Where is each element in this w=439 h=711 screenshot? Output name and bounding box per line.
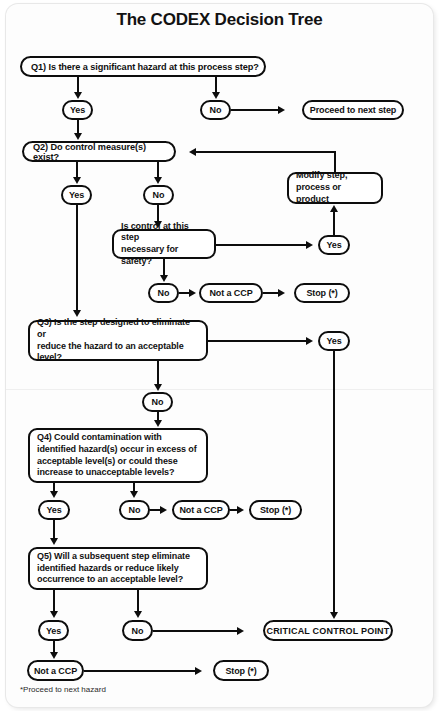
flowchart-stage: The CODEX Decision Tree Q1) Is there a s… xyxy=(0,0,439,711)
node-q3-line3: level? xyxy=(37,352,199,364)
node-q3-line2: reduce the hazard to an acceptable xyxy=(37,341,199,353)
edge-modify-across-to-q2 xyxy=(196,151,336,153)
node-q5-not-ccp-label: Not a CCP xyxy=(34,666,77,676)
arrow-q4yes-to-q5 xyxy=(50,538,58,545)
edge-q5-to-no xyxy=(137,590,139,612)
arrow-yes-to-q2 xyxy=(74,133,82,140)
node-q2-yes[interactable]: Yes xyxy=(61,185,92,205)
node-q4-no-label: No xyxy=(129,505,141,515)
node-q4-no[interactable]: No xyxy=(119,500,150,520)
edge-q5notccp-to-stop xyxy=(84,670,196,672)
node-control-no[interactable]: No xyxy=(148,283,179,303)
arrow-q3-to-yes xyxy=(306,337,313,345)
edge-q3-to-yes xyxy=(208,340,308,342)
node-q5-no[interactable]: No xyxy=(122,620,153,641)
arrow-controlno-to-notccp xyxy=(189,289,196,297)
edge-controlyes-to-modify xyxy=(333,212,335,236)
arrow-q4-to-no xyxy=(130,491,138,498)
node-critical-control-point[interactable]: CRITICAL CONTROL POINT xyxy=(263,620,393,641)
node-q2-label: Q2) Do control measure(s) exist? xyxy=(33,142,174,162)
edge-q2-to-no xyxy=(157,162,159,178)
arrow-q3no-to-q4 xyxy=(154,420,162,427)
node-q4-not-ccp[interactable]: Not a CCP xyxy=(172,500,230,520)
node-q3-no-label: No xyxy=(152,397,164,407)
node-control-yes[interactable]: Yes xyxy=(318,235,350,255)
arrow-q2-to-no xyxy=(154,177,162,184)
node-control-stop[interactable]: Stop (*) xyxy=(294,283,350,303)
node-q4-line1: Q4) Could contamination with xyxy=(37,432,197,444)
node-q1-no-label: No xyxy=(210,105,222,115)
node-q2-no[interactable]: No xyxy=(143,185,174,205)
node-q5[interactable]: Q5) Will a subsequent step eliminate ide… xyxy=(28,547,208,590)
arrow-q5yes-to-notccp xyxy=(50,652,58,659)
node-q3-yes-label: Yes xyxy=(326,336,341,346)
edge-q2-to-yes xyxy=(76,162,78,178)
node-q4-line4: increase to unacceptable levels? xyxy=(37,467,197,479)
node-q5-stop[interactable]: Stop (*) xyxy=(213,660,269,681)
node-q4-stop[interactable]: Stop (*) xyxy=(249,500,302,520)
node-q3-no[interactable]: No xyxy=(142,392,173,412)
arrow-no-to-proceed xyxy=(278,106,285,114)
node-proceed-next-step[interactable]: Proceed to next step xyxy=(302,100,404,120)
arrow-modify-to-q2 xyxy=(189,148,196,156)
node-modify-step[interactable]: Modify step, process or product xyxy=(287,172,383,204)
node-q1-label: Q1) Is there a significant hazard at thi… xyxy=(31,62,259,72)
edge-q3-to-no xyxy=(157,361,159,385)
arrow-q5-to-no xyxy=(134,611,142,618)
node-q3-yes[interactable]: Yes xyxy=(318,331,350,351)
arrow-controlq-to-yes xyxy=(306,241,313,249)
node-control-no-label: No xyxy=(158,288,170,298)
arrow-q1-to-no xyxy=(212,92,220,99)
node-q1-yes-label: Yes xyxy=(70,105,85,115)
node-q2[interactable]: Q2) Do control measure(s) exist? xyxy=(22,141,176,162)
node-q4-yes[interactable]: Yes xyxy=(38,500,70,520)
node-q4[interactable]: Q4) Could contamination with identified … xyxy=(28,428,208,483)
arrow-q5-to-yes xyxy=(50,611,58,618)
node-q5-line1: Q5) Will a subsequent step eliminate xyxy=(37,551,190,563)
arrow-controlnotccp-to-stop xyxy=(278,289,285,297)
arrow-q2yes-to-q3 xyxy=(73,310,81,317)
arrow-q5notccp-to-stop xyxy=(195,667,202,675)
node-q1[interactable]: Q1) Is there a significant hazard at thi… xyxy=(20,56,266,77)
edge-q1-to-no xyxy=(215,77,217,93)
node-q3-line1: Q3) Is the step designed to eliminate or xyxy=(37,317,199,340)
arrow-q2-to-yes xyxy=(73,177,81,184)
edge-q1-to-yes xyxy=(77,77,79,93)
node-q1-yes[interactable]: Yes xyxy=(62,100,93,120)
arrow-controlyes-to-modify xyxy=(330,205,338,212)
node-q5-not-ccp[interactable]: Not a CCP xyxy=(27,660,84,681)
arrow-q1-to-yes xyxy=(74,92,82,99)
page-title: The CODEX Decision Tree xyxy=(0,10,439,30)
node-q4-not-ccp-label: Not a CCP xyxy=(179,505,222,515)
node-control-necessary-line1: Is control at this step xyxy=(121,221,207,244)
edge-controlq-to-yes xyxy=(216,244,308,246)
node-q1-no[interactable]: No xyxy=(200,100,231,120)
node-control-yes-label: Yes xyxy=(326,240,341,250)
arrow-q3-to-no xyxy=(154,384,162,391)
edge-yes-to-q2 xyxy=(77,120,79,134)
node-q2-no-label: No xyxy=(153,190,165,200)
node-q4-line3: acceptable level(s) or could these xyxy=(37,456,197,468)
node-q4-stop-label: Stop (*) xyxy=(260,505,291,515)
edge-q4yes-to-q5 xyxy=(53,520,55,539)
node-control-not-ccp[interactable]: Not a CCP xyxy=(199,283,263,303)
node-proceed-next-step-label: Proceed to next step xyxy=(310,105,397,115)
node-q4-yes-label: Yes xyxy=(46,505,61,515)
node-q4-line2: identified hazard(s) occur in excess of xyxy=(37,444,197,456)
node-control-necessary-line2: necessary for safety? xyxy=(121,244,207,267)
node-q3[interactable]: Q3) Is the step designed to eliminate or… xyxy=(28,320,208,361)
edge-q5-to-yes xyxy=(53,590,55,612)
arrow-q4notccp-to-stop xyxy=(237,506,244,514)
node-modify-step-label: Modify step, process or product xyxy=(296,170,374,205)
node-q5-no-label: No xyxy=(132,626,144,636)
node-q5-stop-label: Stop (*) xyxy=(225,666,256,676)
node-control-necessary[interactable]: Is control at this step necessary for sa… xyxy=(112,229,216,259)
node-q2-yes-label: Yes xyxy=(69,190,84,200)
edge-controlnotccp-to-stop xyxy=(263,292,279,294)
node-q5-line3: occurrence to an acceptable level? xyxy=(37,574,190,586)
footnote: *Proceed to next hazard xyxy=(20,685,106,694)
node-critical-control-point-label: CRITICAL CONTROL POINT xyxy=(266,626,389,636)
node-q5-yes[interactable]: Yes xyxy=(38,620,69,641)
arrow-q4no-to-notccp xyxy=(160,506,167,514)
edge-q2yes-to-q3 xyxy=(76,205,78,311)
